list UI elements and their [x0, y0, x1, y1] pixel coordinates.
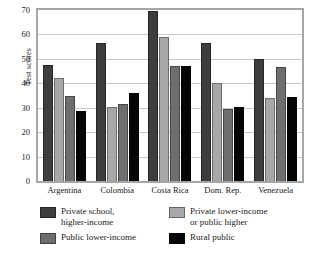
- x-axis-label: Argentina: [38, 185, 91, 195]
- x-axis-label: Costa Rica: [144, 185, 197, 195]
- legend-item: Private school, higher-income: [40, 206, 161, 227]
- y-tick-label: 20: [22, 128, 31, 137]
- bar-group: [91, 10, 144, 181]
- bar-group: [144, 10, 197, 181]
- bar: [148, 11, 158, 181]
- bar: [76, 111, 86, 181]
- bar: [96, 43, 106, 181]
- bar: [107, 107, 117, 182]
- x-axis-label: Venezuela: [249, 185, 302, 195]
- bar: [65, 96, 75, 182]
- legend-label: Rural public: [190, 232, 235, 243]
- legend-item: Rural public: [169, 232, 290, 244]
- bar: [212, 83, 222, 181]
- legend-swatch-icon: [169, 233, 185, 244]
- bar-group: [249, 10, 302, 181]
- bar-group: [38, 10, 91, 181]
- legend-label: Private lower-income or public higher: [190, 206, 268, 227]
- bar: [181, 66, 191, 181]
- legend-item: Public lower-income: [40, 232, 161, 244]
- bar: [265, 98, 275, 181]
- chart-legend: Private school, higher-incomePrivate low…: [40, 206, 290, 244]
- bar: [129, 93, 139, 181]
- bar: [287, 97, 297, 181]
- legend-swatch-icon: [40, 233, 56, 244]
- bar: [170, 66, 180, 181]
- y-axis-tick-labels: 706050403020100: [0, 8, 34, 183]
- legend-item: Private lower-income or public higher: [169, 206, 290, 227]
- legend-swatch-icon: [40, 207, 56, 218]
- x-axis-category-labels: ArgentinaColombiaCosta RicaDom. Rep.Vene…: [38, 185, 302, 195]
- x-axis-label: Dom. Rep.: [196, 185, 249, 195]
- y-tick-label: 70: [22, 6, 31, 15]
- bar-chart: Test scores 706050403020100 ArgentinaCol…: [0, 0, 317, 260]
- y-tick-label: 10: [22, 152, 31, 161]
- bar-group: [196, 10, 249, 181]
- bar-groups: [38, 10, 302, 181]
- bar: [201, 43, 211, 181]
- y-tick-label: 0: [26, 177, 30, 186]
- bar: [54, 78, 64, 181]
- y-tick-label: 50: [22, 55, 31, 64]
- y-tick-label: 60: [22, 30, 31, 39]
- legend-label: Public lower-income: [61, 232, 136, 243]
- bar: [118, 104, 128, 181]
- bar: [223, 109, 233, 181]
- legend-label: Private school, higher-income: [61, 206, 115, 227]
- x-axis-label: Colombia: [91, 185, 144, 195]
- bar: [43, 65, 53, 181]
- legend-swatch-icon: [169, 207, 185, 218]
- y-tick-label: 30: [22, 103, 31, 112]
- bar: [254, 59, 264, 181]
- bar: [276, 67, 286, 181]
- y-tick-label: 40: [22, 79, 31, 88]
- bar: [159, 37, 169, 181]
- bar: [234, 107, 244, 182]
